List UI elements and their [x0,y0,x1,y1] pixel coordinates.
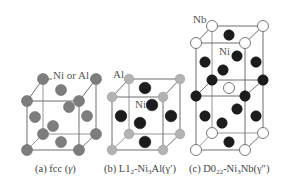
atom-corner [38,129,49,140]
atom-ni-face-left [115,110,127,122]
atom-corner [91,129,102,140]
caption-a: (a) fcc (γ) [35,163,76,175]
atom-ni [200,57,210,67]
atom-ni [217,118,227,128]
atom-corner [74,96,85,107]
atom-ni [251,57,261,67]
atom-face-bottom [56,137,67,148]
atom-al-corner [107,92,117,102]
atom-al-corner [175,74,185,84]
caption-c: (c) D022-Ni3Nb(γ″) [189,163,270,176]
atom-ni [200,111,210,121]
atom-face-back [64,102,75,113]
caption-b: (b) L12-Ni3Al(γ′) [104,163,176,176]
atom-corner [22,145,33,156]
atom-ni [232,104,242,114]
label-nb: Nb [193,13,207,25]
atom-corner [38,74,49,85]
atom-nb-corner [207,128,218,139]
atom-nb-corner [207,21,218,32]
atom-corner [74,145,85,156]
atom-al-corner [107,145,117,155]
atom-face-left [30,112,41,123]
atom-nb-corner [191,38,202,49]
atom-nb-corner [258,128,269,139]
atom-ni [218,65,228,75]
panel-a-fcc: Ni or Al (a) fcc (γ) [22,69,102,175]
atom-ni-face-right [165,110,177,122]
atom-corner [22,96,33,107]
atom-al-corner [124,129,134,139]
atom-nb-corner [191,145,202,156]
atom-face-top [56,85,67,96]
site-label-ni-or-al: Ni or Al [53,69,89,81]
atom-ni-face-front [134,117,146,129]
atom-face-front [48,121,59,132]
panel-c-d022: Nb Ni (c) D022-Ni3Nb(γ″) [189,13,270,176]
atom-ni-mid-corner [191,91,201,101]
atom-nb-corner [240,145,251,156]
atom-ni [224,137,234,147]
atom-nb-corner [258,21,269,32]
atom-al-corner [175,129,185,139]
crystal-structures-diagram: Ni or Al (a) fcc (γ) Al Ni [0,0,290,184]
atom-al-corner [124,74,134,84]
atom-nb-corner [240,38,251,49]
atom-ni-face-top [139,82,151,94]
atom-ni-face-bottom [139,136,151,148]
atom-ni-mid-corner [240,91,250,101]
atom-ni [232,51,242,61]
atom-ni-mid-corner [207,75,217,85]
label-ni: Ni [219,45,230,57]
atom-ni [224,30,234,40]
label-ni: Ni [135,98,146,110]
panel-b-l12: Al Ni (b) L12-Ni3Al(γ′) [104,68,185,176]
atom-ni [251,111,261,121]
atom-nb-mid [224,83,235,94]
atom-face-right [82,111,93,122]
atom-ni-mid-corner [258,75,268,85]
atom-corner [91,74,102,85]
label-al: Al [113,68,124,80]
atom-al-corner [158,92,168,102]
atom-ni-face-back [146,99,158,111]
atom-al-corner [158,145,168,155]
